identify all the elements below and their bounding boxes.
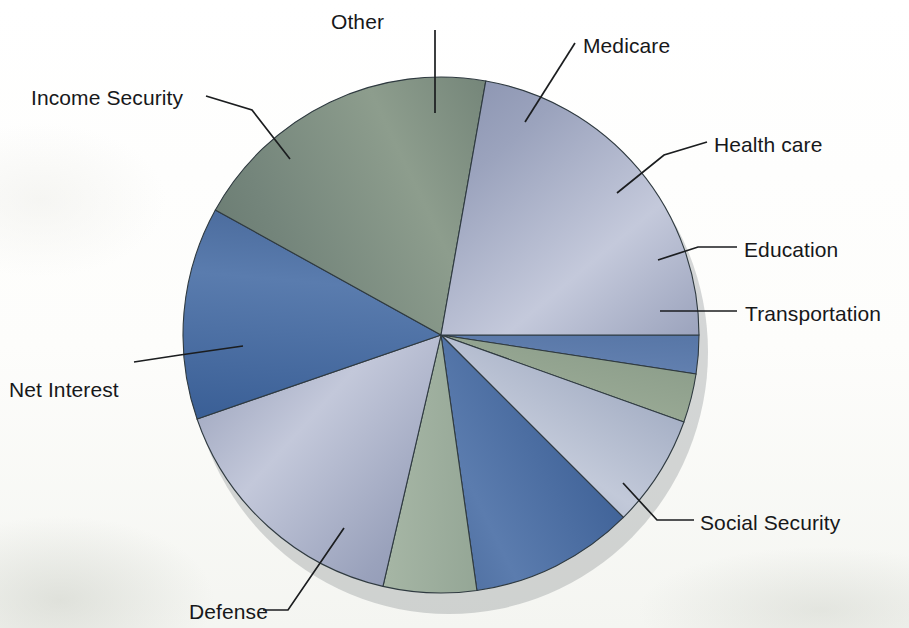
slice-label-social-security: Social Security xyxy=(700,511,840,535)
slice-label-net-interest: Net Interest xyxy=(9,378,119,402)
slice-label-health-care: Health care xyxy=(714,133,823,157)
pie-slice-social-security xyxy=(441,81,699,335)
slice-label-other: Other xyxy=(331,10,384,34)
pie-chart-figure: OtherMedicareIncome SecurityHealth careE… xyxy=(0,0,909,628)
slice-label-income-security: Income Security xyxy=(31,86,183,110)
slice-label-medicare: Medicare xyxy=(583,34,670,58)
slice-label-transportation: Transportation xyxy=(745,302,881,326)
slice-label-defense: Defense xyxy=(189,600,268,624)
slice-label-education: Education xyxy=(744,238,838,262)
pie-slices-group xyxy=(183,77,699,593)
